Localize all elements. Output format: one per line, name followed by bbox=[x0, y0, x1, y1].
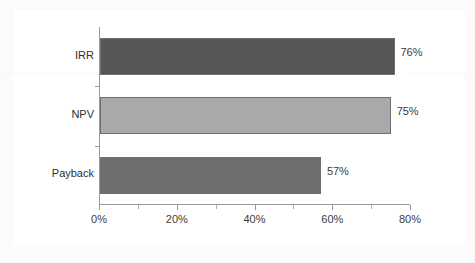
paper-artifact-top bbox=[0, 0, 475, 10]
paper-artifact-right bbox=[465, 0, 475, 263]
bar-value-irr: 76% bbox=[401, 47, 423, 58]
x-axis: 0% 20% 40% 60% 80% bbox=[99, 205, 410, 235]
bar-group-irr: 76% bbox=[100, 27, 410, 86]
x-axis-tick-10 bbox=[138, 205, 139, 209]
bar-irr[interactable] bbox=[100, 38, 395, 75]
x-axis-label-40: 40% bbox=[243, 214, 265, 225]
bar-npv[interactable] bbox=[100, 97, 391, 134]
x-axis-tick-80 bbox=[410, 205, 411, 210]
bar-group-payback: 57% bbox=[100, 146, 410, 205]
x-axis-label-80: 80% bbox=[399, 214, 421, 225]
x-axis-tick-50 bbox=[293, 205, 294, 209]
x-axis-tick-20 bbox=[177, 205, 178, 210]
paper-artifact-bottom bbox=[0, 245, 475, 263]
y-axis-labels: IRR NPV Payback bbox=[4, 27, 94, 205]
y-axis-label-payback: Payback bbox=[4, 168, 94, 179]
x-axis-tick-60 bbox=[332, 205, 333, 210]
x-axis-label-60: 60% bbox=[321, 214, 343, 225]
bar-value-payback: 57% bbox=[327, 166, 349, 177]
x-axis-tick-70 bbox=[371, 205, 372, 209]
x-axis-label-0: 0% bbox=[91, 214, 107, 225]
bar-group-npv: 75% bbox=[100, 86, 410, 145]
y-axis-label-npv: NPV bbox=[4, 109, 94, 120]
x-axis-label-20: 20% bbox=[166, 214, 188, 225]
plot-area: 76% 75% 57% bbox=[99, 27, 410, 205]
bar-value-npv: 75% bbox=[397, 106, 419, 117]
y-axis-label-irr: IRR bbox=[4, 50, 94, 61]
bar-chart: IRR NPV Payback 76% 75% 57% 0% 20% bbox=[0, 0, 475, 263]
x-axis-tick-30 bbox=[216, 205, 217, 209]
x-axis-tick-0 bbox=[99, 205, 100, 210]
x-axis-tick-40 bbox=[255, 205, 256, 210]
bar-payback[interactable] bbox=[100, 157, 321, 194]
